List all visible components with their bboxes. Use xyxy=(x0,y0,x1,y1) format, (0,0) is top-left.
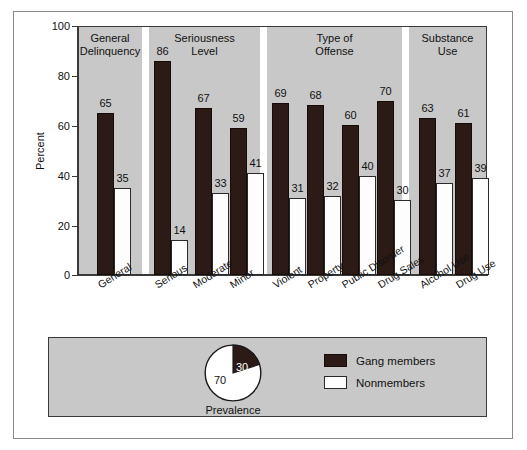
bar-gang-serious xyxy=(154,61,171,275)
bar-chart-plot-area: General Delinquency Seriousness Level Ty… xyxy=(78,26,487,275)
bar-value-gang-drug-use: 61 xyxy=(444,108,483,119)
figure-root: Percent 100 80 60 40 20 0 General Delinq… xyxy=(0,0,527,450)
bar-gang-general xyxy=(97,113,114,275)
y-tick-label-100: 100 xyxy=(34,21,70,32)
bar-value-nonmember-minor: 41 xyxy=(236,158,275,169)
legend-item-gang-members: Gang members xyxy=(324,354,435,367)
x-axis-label-band: General Serious Moderate Minor Violent P… xyxy=(78,276,487,333)
legend-label-gang-members: Gang members xyxy=(356,355,435,367)
group-title-line2: Use xyxy=(409,45,486,58)
y-tick-label-80: 80 xyxy=(34,71,70,82)
bar-gang-public-disorder xyxy=(342,125,359,275)
y-tick-label-60: 60 xyxy=(34,121,70,132)
bar-value-gang-serious: 86 xyxy=(143,46,182,57)
legend-swatch-light-icon xyxy=(324,376,347,389)
bar-gang-moderate xyxy=(195,108,212,275)
prevalence-pie-wrap: 30 70 Prevalence xyxy=(204,344,278,418)
bar-value-gang-drug-sales: 70 xyxy=(366,86,405,97)
bar-value-nonmember-serious: 14 xyxy=(160,225,199,236)
group-title-substance-use: Substance Use xyxy=(409,32,486,58)
bar-value-gang-public-disorder: 60 xyxy=(331,110,370,121)
legend-item-nonmembers: Nonmembers xyxy=(324,376,435,389)
bar-value-nonmember-general: 35 xyxy=(103,173,142,184)
legend-swatch-dark-icon xyxy=(324,354,347,367)
pie-caption: Prevalence xyxy=(190,404,276,416)
group-title-line2: Offense xyxy=(267,45,402,58)
bar-nonmember-minor xyxy=(247,173,264,275)
group-title-general-delinquency: General Delinquency xyxy=(78,32,142,58)
bar-gang-alcohol-use xyxy=(419,118,436,275)
bar-value-gang-general: 65 xyxy=(86,98,125,109)
group-title-type-of-offense: Type of Offense xyxy=(267,32,402,58)
bar-value-nonmember-drug-use: 39 xyxy=(461,163,500,174)
y-tick-label-20: 20 xyxy=(34,221,70,232)
group-separator-1 xyxy=(142,27,149,274)
group-title-line1: General xyxy=(78,32,142,45)
y-axis-title: Percent xyxy=(34,132,46,170)
bar-value-nonmember-drug-sales: 30 xyxy=(383,185,422,196)
group-title-line2: Delinquency xyxy=(78,45,142,58)
pie-value-gang-members: 30 xyxy=(236,361,248,373)
bar-value-gang-minor: 59 xyxy=(219,113,258,124)
group-title-line1: Seriousness xyxy=(149,32,260,45)
group-title-line1: Type of xyxy=(267,32,402,45)
pie-value-nonmembers: 70 xyxy=(214,374,226,386)
bar-value-gang-alcohol-use: 63 xyxy=(408,103,447,114)
y-tick-label-0: 0 xyxy=(34,270,70,281)
y-tick-label-40: 40 xyxy=(34,171,70,182)
prevalence-pie-chart xyxy=(204,344,262,402)
legend-label-nonmembers: Nonmembers xyxy=(356,377,425,389)
prevalence-legend-panel: 30 70 Prevalence Gang members Nonmembers xyxy=(48,337,487,417)
group-title-line1: Substance xyxy=(409,32,486,45)
bar-gang-minor xyxy=(230,128,247,275)
bar-value-gang-violent: 69 xyxy=(261,88,300,99)
bar-value-gang-moderate: 67 xyxy=(184,93,223,104)
chart-legend: Gang members Nonmembers xyxy=(324,354,435,398)
bar-value-gang-property: 68 xyxy=(296,90,335,101)
